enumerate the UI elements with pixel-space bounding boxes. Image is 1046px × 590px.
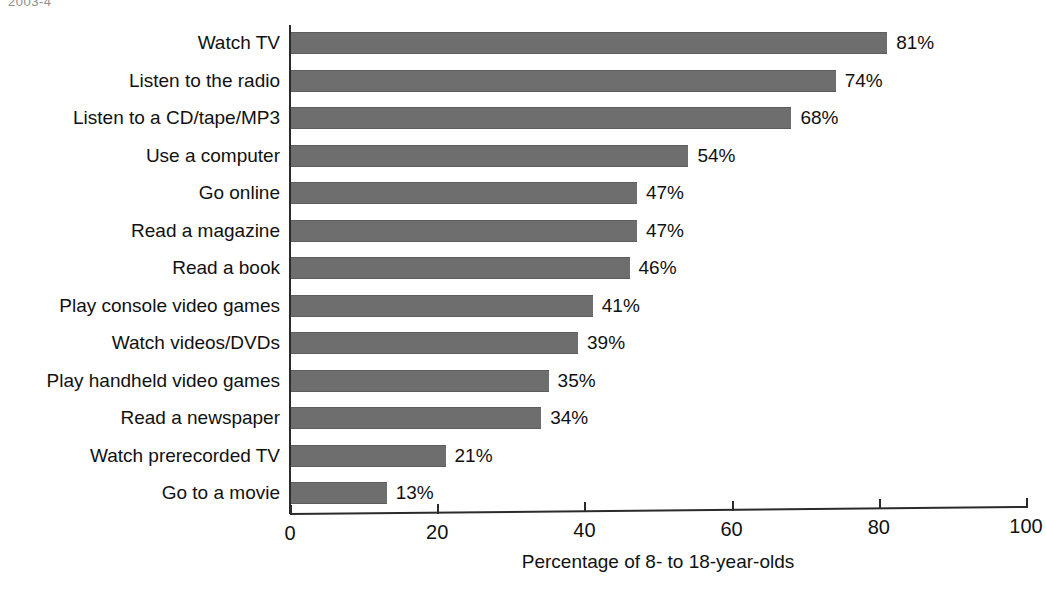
x-tick-label: 20 [426,520,448,544]
x-tick-label: 40 [573,518,595,542]
x-tick-mark [584,502,586,512]
x-tick-label: 0 [284,521,295,545]
x-tick-mark [732,501,734,511]
x-tick-mark [879,499,881,509]
x-axis-ticks: 020406080100 [0,0,1046,590]
x-tick-mark [437,504,439,514]
bar-chart: 2003-4 Watch TV81%Listen to the radio74%… [0,0,1046,590]
x-tick-mark [1026,498,1028,508]
x-tick-label: 60 [720,517,742,541]
x-axis-title: Percentage of 8- to 18-year-olds [290,551,1026,573]
x-tick-label: 80 [868,515,890,539]
x-tick-label: 100 [1009,514,1042,538]
x-tick-mark [290,505,292,515]
